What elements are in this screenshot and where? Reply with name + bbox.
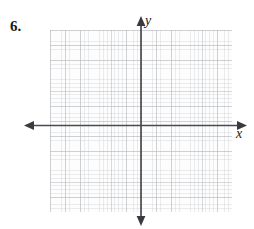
y-axis-label: y — [145, 14, 151, 28]
x-axis-label: x — [236, 127, 242, 141]
problem-number-label: 6. — [10, 19, 21, 34]
x-axis-left-arrowhead — [24, 121, 34, 130]
graph-paper-grid — [50, 30, 232, 212]
worksheet-canvas: 6. y x — [0, 0, 254, 229]
y-axis-down-arrowhead — [137, 216, 146, 226]
